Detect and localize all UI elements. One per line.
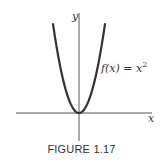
function-label-exponent: 2: [142, 60, 147, 69]
x-axis-label: x: [148, 112, 155, 125]
figure-plot: y x f(x) = x2: [0, 0, 163, 160]
figure-caption: FIGURE 1.17: [0, 143, 163, 155]
y-axis-label: y: [71, 10, 79, 23]
function-label: f(x) = x2: [100, 60, 147, 75]
function-label-lhs: f(x) = x: [100, 62, 143, 75]
